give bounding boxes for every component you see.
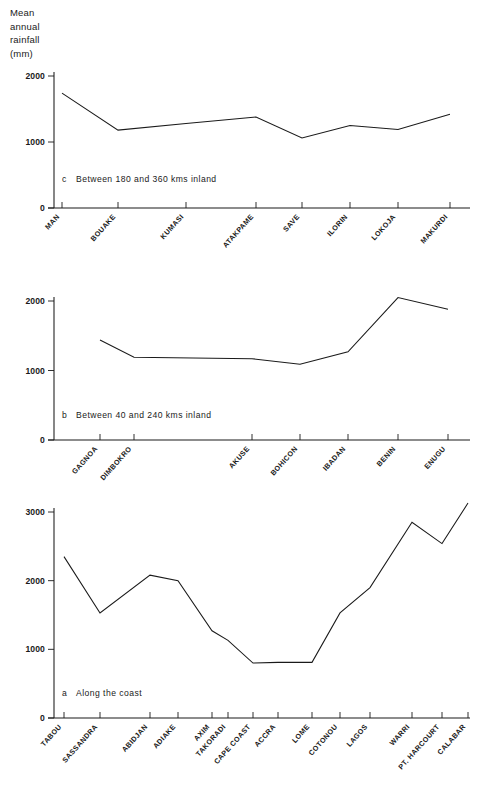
rainfall-figure: Mean annual rainfall (mm) 010002000MANBO… [0,0,483,785]
y-tick-label-a-0: 0 [40,713,45,723]
panel-caption-letter-c: c [62,174,67,184]
x-tick-label-b-4: IBADAN [321,444,348,472]
x-tick-label-c-3: ATAKPAME [221,212,256,249]
y-axis-title: Mean annual rainfall (mm) [10,6,40,60]
x-tick-label-a-9: COTONOU [307,722,340,757]
panel-caption-text-b: Between 40 and 240 kms inland [76,410,211,420]
x-tick-label-a-10: LAGOS [345,722,370,748]
series-line-a [64,503,468,663]
y-tick-label-c-0: 0 [40,203,45,213]
x-tick-label-c-5: ILORIN [325,212,349,238]
x-tick-label-c-0: MAN [43,212,61,231]
panel-caption-text-c: Between 180 and 360 kms inland [76,174,217,184]
y-tick-label-a-1: 1000 [25,644,45,654]
chart-panel-a: 0100020003000TABOUSASSANDRAABIDJANADIAKE… [25,503,470,771]
x-tick-label-c-7: MAKURDI [418,212,449,245]
rainfall-line-charts: 010002000MANBOUAKEKUMASIATAKPAMESAVEILOR… [0,0,483,785]
x-tick-label-a-7: ACCRA [252,722,277,749]
y-tick-label-a-3: 3000 [25,507,45,517]
x-tick-label-a-2: ABIDJAN [120,722,150,754]
x-tick-label-b-2: AKUSE [227,444,252,470]
series-line-b [100,298,448,365]
y-tick-label-b-2: 2000 [25,296,45,306]
x-tick-label-b-3: BOHICON [268,444,299,477]
y-tick-label-c-1: 1000 [25,137,45,147]
x-tick-label-a-8: LOME [290,722,312,744]
chart-panel-c: 010002000MANBOUAKEKUMASIATAKPAMESAVEILOR… [25,71,470,250]
x-tick-label-b-1: DIMBOKRO [98,444,133,482]
panel-caption-text-a: Along the coast [76,688,142,698]
series-line-c [62,93,450,138]
x-tick-label-a-11: WARRI [388,722,412,747]
x-tick-label-b-0: GAGNOA [70,444,100,476]
x-tick-label-c-6: LOKOJA [369,212,397,242]
x-tick-label-a-1: SASSANDRA [60,722,99,764]
x-tick-label-a-13: CALABAR [435,722,467,757]
panel-caption-letter-b: b [62,410,67,420]
chart-panel-b: 010002000GAGNOADIMBOKROAKUSEBOHICONIBADA… [25,296,470,482]
x-tick-label-b-6: ENUGU [422,444,447,471]
y-tick-label-a-2: 2000 [25,576,45,586]
x-tick-label-a-3: ADIAKE [151,722,178,750]
x-tick-label-c-4: SAVE [281,212,301,233]
y-tick-label-b-1: 1000 [25,366,45,376]
y-tick-label-b-0: 0 [40,435,45,445]
x-tick-label-c-1: BOUAKE [89,212,118,243]
x-tick-label-a-0: TABOU [39,722,64,748]
panel-caption-letter-a: a [62,688,67,698]
x-tick-label-c-2: KUMASI [158,212,185,241]
y-tick-label-c-2: 2000 [25,71,45,81]
x-tick-label-b-5: BENIN [375,444,398,468]
